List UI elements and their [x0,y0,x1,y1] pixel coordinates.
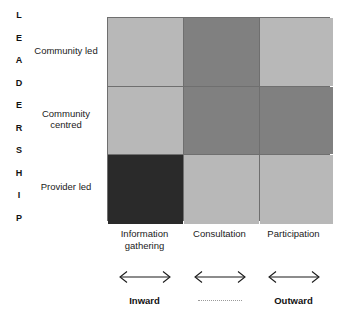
direction-label-outward: Outward [257,292,330,308]
double-arrow-icon-consultation [182,268,257,286]
row-label: Community led [30,17,102,85]
matrix-cell [184,87,259,154]
leadership-letter: A [16,56,23,65]
matrix-cell [184,155,259,224]
figure-caption [14,322,134,330]
matrix-cell [108,18,183,86]
double-arrow-icon-participation [257,268,330,286]
direction-connector [182,292,257,308]
arrow-row [107,268,330,286]
matrix-cell [108,87,183,154]
column-label: Consultation [182,228,257,258]
leadership-letter: H [16,169,23,178]
matrix-cell [184,18,259,86]
dotted-line-icon [198,300,242,301]
matrix-cell [260,18,333,86]
column-labels: Information gatheringConsultationPartici… [107,228,330,258]
matrix-cell [108,155,183,224]
column-label: Information gathering [107,228,182,258]
row-label: Provider led [30,153,102,221]
leadership-letter: R [16,124,23,133]
row-label: Community centred [30,85,102,153]
leadership-letter: L [16,11,22,20]
leadership-letter: S [16,146,22,155]
matrix-cell [260,155,333,224]
leadership-letter: I [18,191,21,200]
row-labels: Community ledCommunity centredProvider l… [30,17,102,221]
column-label: Participation [257,228,330,258]
leadership-letter: P [16,214,22,223]
matrix-cell [260,87,333,154]
leadership-letter: D [16,79,23,88]
direction-label-inward: Inward [107,292,182,308]
leadership-axis: LEADERSHIP [8,11,30,223]
double-arrow-icon-information-gathering [107,268,182,286]
leadership-participation-matrix [107,17,330,221]
leadership-letter: E [16,101,22,110]
direction-row: Inward Outward [107,292,330,308]
leadership-letter: E [16,34,22,43]
